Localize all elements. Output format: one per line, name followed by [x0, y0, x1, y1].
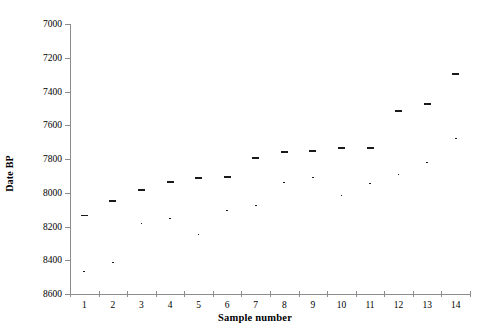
- error-bar-center-marker: [309, 150, 316, 152]
- error-bar-range: [398, 174, 400, 175]
- y-axis-tick-label-wrap: 7800: [16, 154, 62, 164]
- y-axis-tick: [65, 92, 71, 93]
- y-axis-tick: [65, 260, 71, 261]
- error-bar-center-marker: [395, 110, 402, 112]
- y-axis-tick-label: 7000: [20, 19, 62, 29]
- x-axis-title: Sample number: [175, 312, 335, 323]
- x-axis-tick: [213, 291, 214, 297]
- error-bar-center-marker: [167, 181, 174, 183]
- x-axis-tick-label: 10: [326, 300, 356, 311]
- error-bar-range: [426, 162, 428, 163]
- error-bar-center-marker: [195, 177, 202, 179]
- x-axis-tick: [413, 291, 414, 297]
- plot-area: 700072007400760078008000820084008600 123…: [0, 0, 486, 334]
- y-axis-tick-label-wrap: 8400: [16, 255, 62, 265]
- y-axis-tick-label: 7800: [20, 154, 62, 164]
- x-axis-tick: [299, 291, 300, 297]
- error-bar-center-marker: [367, 147, 374, 149]
- x-axis-tick-label: 7: [241, 300, 271, 311]
- y-axis-title: Date BP: [4, 144, 15, 204]
- error-bar-range: [112, 262, 114, 263]
- x-axis-tick: [241, 291, 242, 297]
- error-bar-center-marker: [109, 200, 116, 202]
- x-axis-tick: [156, 291, 157, 297]
- y-axis-tick-label: 8000: [20, 188, 62, 198]
- x-axis-tick-label: 3: [126, 300, 156, 311]
- error-bar-center-marker: [424, 103, 431, 105]
- x-axis-tick: [384, 291, 385, 297]
- error-bar-range: [169, 218, 171, 219]
- y-axis-tick-label-wrap: 8200: [16, 222, 62, 232]
- y-axis-tick-label-wrap: 7200: [16, 53, 62, 63]
- error-bar-center-marker: [281, 151, 288, 153]
- x-axis-tick: [356, 291, 357, 297]
- x-axis-tick-label: 12: [384, 300, 414, 311]
- error-bar-center-marker: [338, 147, 345, 149]
- y-axis-tick-label: 7400: [20, 87, 62, 97]
- x-axis-tick: [127, 291, 128, 297]
- x-axis-tick-label: 13: [412, 300, 442, 311]
- x-axis-tick: [99, 291, 100, 297]
- chart-figure: 700072007400760078008000820084008600 123…: [0, 0, 486, 334]
- x-axis-tick: [270, 291, 271, 297]
- y-axis-tick-label-wrap: 7000: [16, 19, 62, 29]
- error-bar-range: [198, 234, 200, 235]
- y-axis-tick-label-wrap: 7400: [16, 87, 62, 97]
- y-axis-tick-label-wrap: 7600: [16, 120, 62, 130]
- error-bar-center-marker: [452, 73, 459, 75]
- x-axis-tick-label: 9: [298, 300, 328, 311]
- y-axis-tick: [65, 227, 71, 228]
- error-bar-range: [226, 210, 228, 211]
- error-bar-range: [283, 182, 285, 183]
- error-bar-center-marker: [138, 189, 145, 191]
- x-axis-tick-label: 5: [184, 300, 214, 311]
- x-axis-tick-label: 4: [155, 300, 185, 311]
- x-axis-tick-label: 8: [269, 300, 299, 311]
- x-axis-tick-label: 2: [98, 300, 128, 311]
- error-bar-center-marker: [81, 215, 88, 217]
- y-axis-tick: [65, 125, 71, 126]
- error-bar-range: [312, 177, 314, 178]
- x-axis-tick-label: 1: [69, 300, 99, 311]
- error-bar-range: [255, 205, 257, 206]
- x-axis-tick: [470, 291, 471, 297]
- y-axis-tick: [65, 193, 71, 194]
- x-axis-tick-label: 14: [441, 300, 471, 311]
- y-axis-tick-label: 8600: [20, 289, 62, 299]
- y-axis-tick-label: 8200: [20, 222, 62, 232]
- x-axis-tick-label: 11: [355, 300, 385, 311]
- y-axis-tick-label: 7200: [20, 53, 62, 63]
- y-axis-tick-label-wrap: 8000: [16, 188, 62, 198]
- error-bar-center-marker: [252, 157, 259, 159]
- error-bar-range: [83, 271, 85, 272]
- x-axis-tick: [327, 291, 328, 297]
- error-bar-range: [341, 195, 343, 196]
- y-axis-tick-label: 8400: [20, 255, 62, 265]
- error-bar-range: [369, 183, 371, 184]
- x-axis-tick: [70, 291, 71, 297]
- y-axis-tick: [65, 24, 71, 25]
- x-axis-tick-label: 6: [212, 300, 242, 311]
- error-bar-center-marker: [224, 176, 231, 178]
- y-axis-tick: [65, 159, 71, 160]
- error-bar-range: [141, 223, 143, 224]
- error-bar-range: [455, 138, 457, 139]
- x-axis-tick: [184, 291, 185, 297]
- y-axis-tick-label-wrap: 8600: [16, 289, 62, 299]
- y-axis-tick: [65, 58, 71, 59]
- x-axis-tick: [441, 291, 442, 297]
- y-axis-tick-label: 7600: [20, 120, 62, 130]
